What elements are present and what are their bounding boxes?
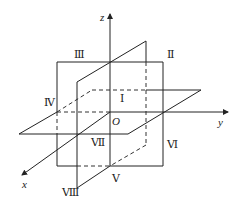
octant-II-label: Ⅱ — [167, 48, 174, 60]
octant-VI-label: Ⅵ — [166, 138, 178, 150]
x-axis-label: x — [21, 178, 27, 190]
octant-VII-label: Ⅶ — [90, 136, 105, 148]
octant-IV-label: Ⅳ — [44, 96, 56, 108]
octant-VIII-label: Ⅷ — [61, 186, 79, 198]
axes — [22, 14, 228, 175]
y-axis-label: y — [217, 116, 223, 128]
z-axis-label: z — [99, 11, 105, 23]
octant-I-label: Ⅰ — [120, 92, 124, 104]
octant-diagram: z y x O Ⅰ Ⅱ Ⅲ Ⅳ Ⅴ Ⅵ Ⅶ Ⅷ — [0, 0, 238, 207]
octant-V-label: Ⅴ — [111, 172, 121, 184]
octant-III-label: Ⅲ — [74, 48, 85, 60]
origin-label: O — [112, 115, 120, 127]
